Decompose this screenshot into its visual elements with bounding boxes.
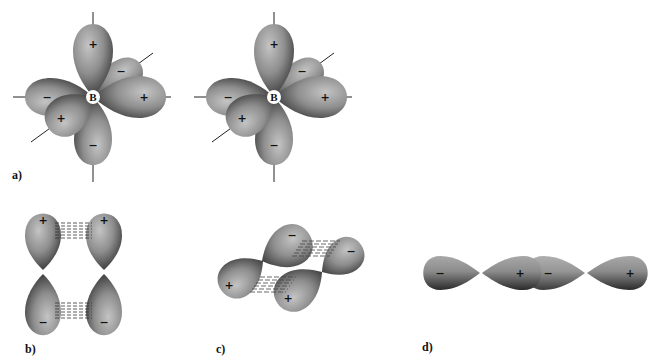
sign-plus: +	[237, 112, 246, 125]
orbital-diagram-figure: B + − + − + − B + − + − + −	[0, 0, 664, 363]
sign-minus: −	[435, 267, 444, 280]
sign-minus: −	[223, 91, 232, 104]
sign-minus: −	[116, 65, 125, 78]
boron-atom-label: B	[89, 91, 97, 103]
sign-minus: −	[346, 245, 355, 258]
boron-orbitals-left: B + − + − + −	[13, 12, 171, 182]
panel-label-d: d)	[422, 340, 433, 355]
sign-minus: −	[297, 65, 306, 78]
sign-plus: +	[320, 91, 329, 104]
sign-minus: −	[38, 316, 47, 329]
sign-plus: +	[99, 214, 108, 227]
sign-minus: −	[287, 229, 296, 242]
panel-label-b: b)	[25, 342, 36, 357]
boron-atom-label: B	[270, 91, 278, 103]
panel-label-c: c)	[216, 342, 225, 357]
sign-plus: +	[283, 292, 292, 305]
sign-minus: −	[88, 139, 97, 152]
sign-plus: +	[515, 267, 524, 280]
sign-plus: +	[625, 267, 634, 280]
sigma-overlap-linear: − + − +	[423, 256, 647, 290]
sign-plus: +	[88, 38, 97, 51]
sign-plus: +	[38, 214, 47, 227]
sign-minus: −	[543, 267, 552, 280]
panel-label-a: a)	[12, 168, 22, 183]
pi-overlap-tilted: − − + +	[210, 217, 371, 320]
pi-overlap-vertical: + + − −	[25, 214, 122, 336]
sign-minus: −	[269, 139, 278, 152]
sign-minus: −	[42, 91, 51, 104]
sign-plus: +	[269, 38, 278, 51]
sign-minus: −	[99, 316, 108, 329]
sign-plus: +	[224, 279, 233, 292]
sign-plus: +	[56, 112, 65, 125]
sign-plus: +	[139, 91, 148, 104]
boron-orbitals-right: B + − + − + −	[194, 12, 352, 182]
